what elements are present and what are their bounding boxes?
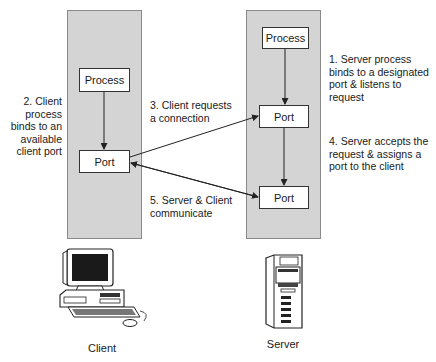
client-computer-icon: [58, 245, 153, 335]
communicate-arrow-to-server: [131, 163, 258, 197]
step1-label: 1. Server process binds to a designated …: [329, 53, 429, 103]
step4-label: 4. Server accepts the request & assigns …: [329, 135, 428, 173]
server-caption: Server: [253, 338, 313, 350]
step5-label: 5. Server & Client communicate: [150, 194, 232, 219]
step3-label: 3. Client requests a connection: [150, 99, 232, 124]
client-caption: Client: [72, 342, 132, 354]
server-tower-icon: [262, 254, 308, 334]
step2-label: 2. Client process binds to an available …: [2, 95, 62, 158]
